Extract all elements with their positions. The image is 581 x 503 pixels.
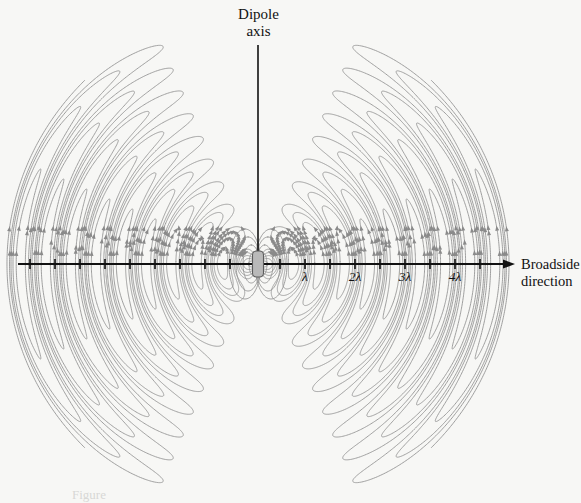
field-direction-arrow (128, 239, 132, 244)
field-direction-arrow (300, 230, 304, 235)
field-direction-arrow (149, 247, 153, 252)
field-direction-arrow (433, 226, 437, 231)
field-direction-arrow (334, 246, 338, 251)
field-direction-arrow (74, 245, 78, 250)
axis-group (18, 45, 515, 269)
field-direction-arrow (498, 251, 502, 256)
field-direction-arrow (447, 250, 451, 255)
field-direction-arrow (205, 239, 209, 244)
field-direction-arrow (312, 235, 316, 240)
field-direction-arrow (345, 242, 349, 247)
field-direction-arrow (397, 250, 401, 255)
field-direction-arrow (52, 244, 56, 249)
field-direction-arrow (363, 247, 367, 252)
field-direction-arrow (151, 235, 155, 240)
dipole-axis-label-line1: Dipole (206, 6, 311, 23)
field-direction-arrow (17, 226, 21, 231)
field-direction-arrow (372, 251, 376, 256)
field-direction-arrow (297, 226, 301, 231)
field-direction-arrow (312, 244, 316, 249)
broadside-label-line2: direction (521, 273, 581, 290)
field-direction-arrow (209, 230, 213, 235)
field-direction-arrow (7, 226, 11, 231)
field-direction-arrow (412, 238, 416, 243)
field-direction-arrow (385, 226, 389, 231)
field-direction-arrow (384, 239, 388, 244)
field-direction-arrow (317, 240, 321, 245)
field-direction-arrow (183, 226, 187, 231)
field-direction-arrow (125, 239, 129, 244)
field-direction-arrow (336, 238, 340, 243)
field-direction-arrow (67, 230, 71, 235)
broadside-label-line1: Broadside (521, 256, 581, 273)
field-direction-arrow (176, 238, 180, 243)
field-direction-arrow (320, 245, 324, 250)
field-direction-arrow (486, 225, 490, 230)
field-direction-arrow (192, 245, 196, 250)
field-direction-arrow (305, 234, 309, 239)
field-direction-arrow (460, 244, 464, 249)
field-direction-arrow (445, 230, 449, 235)
field-direction-arrow (117, 235, 121, 240)
field-direction-arrow (157, 226, 161, 231)
field-direction-arrow (100, 238, 104, 243)
field-direction-arrow (152, 226, 156, 231)
field-direction-arrow (153, 246, 157, 251)
field-direction-arrow (104, 234, 108, 239)
field-direction-arrow (387, 239, 391, 244)
dipole-element (253, 251, 264, 277)
field-direction-arrow (65, 250, 69, 255)
field-direction-arrow (105, 225, 109, 230)
field-direction-arrow (178, 246, 182, 251)
field-direction-arrow (333, 241, 337, 246)
field-direction-arrow (212, 230, 216, 235)
field-direction-arrow (487, 230, 491, 235)
field-direction-arrow (436, 226, 440, 231)
field-direction-arrow (195, 240, 199, 245)
field-direction-arrow (360, 226, 364, 231)
field-direction-arrow (422, 251, 426, 256)
field-direction-arrow (505, 226, 509, 231)
field-direction-arrow (203, 250, 207, 255)
x-tick-label: 4λ (440, 269, 470, 285)
field-direction-arrow (461, 226, 465, 231)
field-direction-arrow (42, 228, 46, 233)
field-direction-arrow (408, 234, 412, 239)
x-tick-label: 3λ (390, 269, 420, 285)
field-direction-arrow (359, 246, 363, 251)
field-direction-arrow (51, 226, 55, 231)
field-direction-arrow (395, 235, 399, 240)
dipole-axis-label: Dipole axis (206, 6, 311, 40)
field-direction-arrow (181, 233, 185, 238)
field-direction-arrow (54, 226, 58, 231)
field-direction-arrow (200, 244, 204, 249)
field-direction-arrow (271, 226, 275, 231)
field-direction-arrow (407, 225, 411, 230)
field-direction-arrow (335, 225, 339, 230)
field-direction-arrow (335, 231, 339, 236)
field-direction-arrow (79, 226, 83, 231)
field-direction-arrow (241, 226, 245, 231)
field-direction-arrow (322, 251, 326, 256)
field-direction-arrow (331, 233, 335, 238)
field-direction-arrow (14, 251, 18, 256)
field-direction-arrow (207, 234, 211, 239)
field-direction-arrow (215, 226, 219, 231)
field-direction-arrow (177, 231, 181, 236)
field-direction-arrow (458, 226, 462, 231)
field-direction-arrow (307, 239, 311, 244)
field-direction-arrow (358, 236, 362, 241)
field-direction-arrow (329, 226, 333, 231)
field-direction-arrow (177, 225, 181, 230)
figure-caption: Figure (72, 487, 106, 503)
field-direction-arrow (411, 226, 415, 231)
field-direction-arrow (154, 236, 158, 241)
field-direction-arrow (201, 235, 205, 240)
field-direction-arrow (26, 225, 30, 230)
field-direction-arrow (286, 228, 291, 233)
field-direction-arrow (495, 226, 499, 231)
field-direction-arrow (368, 229, 372, 234)
field-direction-arrow (90, 251, 94, 256)
field-direction-arrow (470, 228, 474, 233)
